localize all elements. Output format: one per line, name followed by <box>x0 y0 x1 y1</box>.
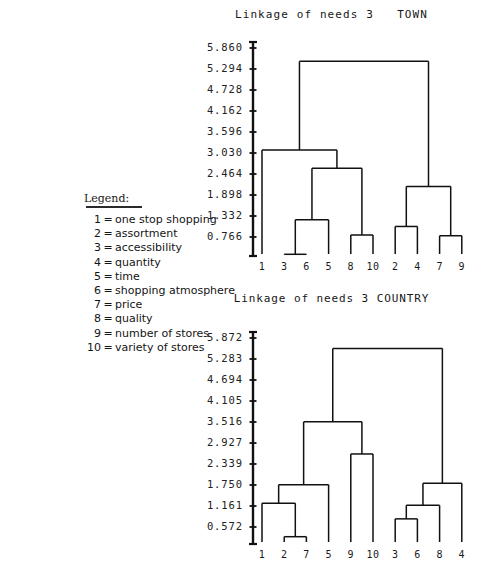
legend-item-equals: = <box>101 341 115 355</box>
legend-item-equals: = <box>101 213 115 227</box>
legend-item-label: assortment <box>115 227 178 240</box>
leaf-label: 1 <box>252 549 272 560</box>
legend-item-label: quality <box>115 312 153 325</box>
chart-town-plot-area: 5.8605.2944.7284.1623.5963.0302.4641.898… <box>186 8 477 280</box>
leaf-label: 10 <box>363 549 383 560</box>
y-axis-tick-label: 1.332 <box>195 209 243 221</box>
legend-item-equals: = <box>101 327 115 341</box>
leaf-label: 7 <box>430 261 450 272</box>
leaf-label: 6 <box>296 261 316 272</box>
leaf-label: 8 <box>430 549 450 560</box>
legend-item-number: 3 <box>84 241 101 255</box>
y-axis-tick-label: 3.030 <box>195 146 243 158</box>
legend-item-number: 2 <box>84 227 101 241</box>
legend-item-equals: = <box>101 270 115 284</box>
legend-item-number: 8 <box>84 312 101 326</box>
legend-item-label: time <box>115 270 140 283</box>
y-axis-tick-label: 5.283 <box>195 352 243 364</box>
legend-item-number: 4 <box>84 256 101 270</box>
legend-item-equals: = <box>101 256 115 270</box>
legend-item-equals: = <box>101 227 115 241</box>
y-axis-tick-label: 4.728 <box>195 83 243 95</box>
legend-item-number: 5 <box>84 270 101 284</box>
legend-item-number: 10 <box>84 341 101 355</box>
leaf-label: 1 <box>252 261 272 272</box>
y-axis-tick-label: 1.750 <box>195 478 243 490</box>
leaf-label: 8 <box>341 261 361 272</box>
leaf-label: 5 <box>319 549 339 560</box>
leaf-label: 9 <box>452 261 472 272</box>
y-axis-tick-label: 3.516 <box>195 415 243 427</box>
leaf-label: 3 <box>274 261 294 272</box>
dendrogram-figure-page: { "page": { "background": "#ffffff", "in… <box>0 0 477 570</box>
y-axis-tick-label: 4.694 <box>195 373 243 385</box>
y-axis-tick-label: 4.162 <box>195 104 243 116</box>
legend-item-number: 9 <box>84 327 101 341</box>
legend-divider <box>86 206 142 208</box>
legend-item-number: 1 <box>84 213 101 227</box>
y-axis-tick-label: 4.105 <box>195 394 243 406</box>
legend-item-equals: = <box>101 241 115 255</box>
legend-item-label: accessibility <box>115 241 182 254</box>
y-axis-tick-label: 5.294 <box>195 62 243 74</box>
y-axis-tick-label: 1.898 <box>195 188 243 200</box>
legend-item-label: quantity <box>115 256 161 269</box>
leaf-label: 5 <box>319 261 339 272</box>
leaf-label: 10 <box>363 261 383 272</box>
y-axis-tick-label: 3.596 <box>195 125 243 137</box>
legend-item-number: 6 <box>84 284 101 298</box>
y-axis-tick-label: 5.872 <box>195 331 243 343</box>
chart-country: Linkage of needs 3 COUNTRY 5.8725.2834.6… <box>186 292 477 568</box>
y-axis-tick-label: 2.927 <box>195 436 243 448</box>
leaf-label: 4 <box>452 549 472 560</box>
chart-town: Linkage of needs 3 TOWN 5.8605.2944.7284… <box>186 8 477 280</box>
y-axis-tick-label: 1.161 <box>195 499 243 511</box>
y-axis-tick-label: 0.766 <box>195 230 243 242</box>
y-axis-tick-label: 2.464 <box>195 167 243 179</box>
leaf-label: 2 <box>385 261 405 272</box>
y-axis-tick-label: 2.339 <box>195 457 243 469</box>
leaf-label: 9 <box>341 549 361 560</box>
y-axis-tick-label: 0.572 <box>195 520 243 532</box>
leaf-label: 3 <box>385 549 405 560</box>
leaf-label: 4 <box>407 261 427 272</box>
legend-item-equals: = <box>101 284 115 298</box>
leaf-label: 6 <box>407 549 427 560</box>
leaf-label: 2 <box>274 549 294 560</box>
legend-item-equals: = <box>101 312 115 326</box>
legend-item-label: price <box>115 298 142 311</box>
y-axis-tick-label: 5.860 <box>195 41 243 53</box>
legend-item-number: 7 <box>84 298 101 312</box>
chart-country-plot-area: 5.8725.2834.6944.1053.5162.9272.3391.750… <box>186 292 477 564</box>
legend-item-equals: = <box>101 298 115 312</box>
leaf-label: 7 <box>296 549 316 560</box>
